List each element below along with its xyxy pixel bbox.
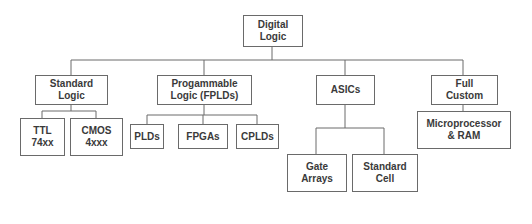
- node-plds: PLDs: [130, 124, 164, 149]
- node-microprocessor-ram: Microprocessor & RAM: [417, 111, 511, 149]
- node-standard-logic: Standard Logic: [35, 75, 108, 105]
- node-gate-arrays: Gate Arrays: [287, 154, 347, 192]
- node-asics: ASICs: [316, 75, 375, 105]
- node-programmable-logic: Progammable Logic (FPLDs): [157, 75, 252, 105]
- node-full-custom: Full Custom: [431, 75, 498, 105]
- node-fpgas: FPGAs: [178, 124, 228, 149]
- node-digital-logic: Digital Logic: [243, 15, 303, 47]
- node-ttl: TTL 74xx: [20, 118, 65, 156]
- node-cplds: CPLDs: [236, 124, 279, 149]
- digital-logic-hierarchy-diagram: Digital Logic Standard Logic Progammable…: [0, 0, 532, 224]
- node-cmos: CMOS 4xxx: [70, 118, 123, 156]
- node-standard-cell: Standard Cell: [352, 154, 418, 192]
